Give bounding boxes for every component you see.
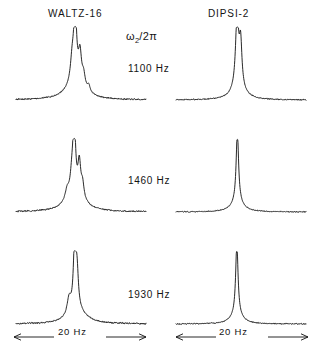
omega-symbol: ω bbox=[126, 30, 135, 42]
omega-rest: /2π bbox=[139, 30, 157, 42]
spectrum-trace-waltz16-1460 bbox=[16, 138, 146, 212]
column-header-waltz16: WALTZ-16 bbox=[48, 8, 102, 19]
row-frequency-label-1460: 1460 Hz bbox=[128, 175, 170, 186]
nmr-spectra-figure: WALTZ-16 DIPSI-2 ω2/2π 1100 Hz 1460 Hz 1… bbox=[0, 0, 315, 350]
frequency-axis-annotation: ω2/2π bbox=[126, 30, 157, 45]
row-frequency-label-1100: 1100 Hz bbox=[128, 63, 169, 74]
scale-bar-label-right: 20 Hz bbox=[219, 326, 248, 337]
spectrum-trace-dipsi2-1930 bbox=[176, 252, 306, 325]
spectrum-trace-dipsi2-1460 bbox=[176, 139, 306, 212]
spectrum-trace-dipsi2-1100 bbox=[176, 27, 306, 101]
row-frequency-label-1930: 1930 Hz bbox=[128, 289, 170, 300]
spectrum-trace-waltz16-1930 bbox=[16, 251, 146, 325]
column-header-dipsi2: DIPSI-2 bbox=[208, 8, 249, 19]
scale-bar-label-left: 20 Hz bbox=[58, 326, 87, 337]
